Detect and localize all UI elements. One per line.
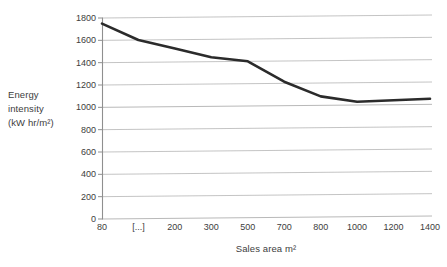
x-axis-tick-label: 800 xyxy=(313,222,328,232)
x-axis-tick-label: 700 xyxy=(277,222,292,232)
x-axis-title: Sales area m² xyxy=(102,243,430,254)
x-axis-tick-label: 1400 xyxy=(420,222,440,232)
x-axis-tick-label: 80 xyxy=(97,222,107,232)
x-axis-tick-label: 1200 xyxy=(384,222,404,232)
x-axis-tick-label: 300 xyxy=(204,222,219,232)
x-axis-tick-label: 500 xyxy=(240,222,255,232)
x-axis-tick-labels: 80[...]200300500700800100012001400 xyxy=(0,0,447,267)
x-axis-tick-label: [...] xyxy=(132,222,145,232)
chart-figure: Energy intensity (kW hr/m²) 020040060080… xyxy=(0,0,447,267)
x-axis-tick-label: 200 xyxy=(167,222,182,232)
x-axis-tick-label: 1000 xyxy=(347,222,367,232)
